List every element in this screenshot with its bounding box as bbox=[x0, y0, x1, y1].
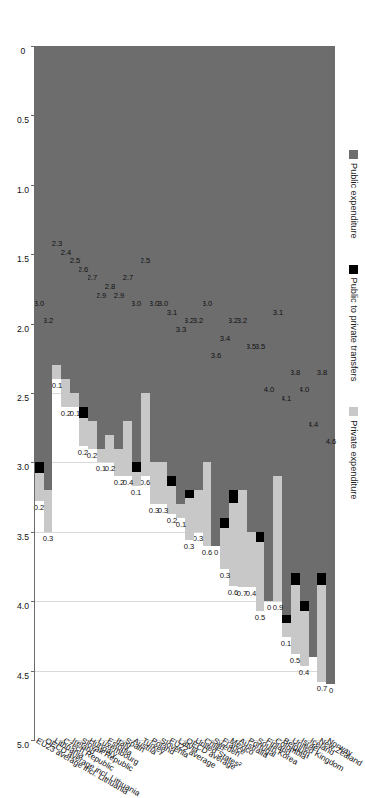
bar-value-private: 0.6 bbox=[140, 479, 151, 487]
bar-segment-public bbox=[317, 46, 326, 573]
axis-tick bbox=[31, 254, 35, 255]
bar-row: 3.00.3 bbox=[150, 46, 159, 740]
bar-value-private: 0.6 bbox=[228, 589, 239, 597]
bar-row: 3.00.3 bbox=[158, 46, 167, 740]
bar-segment-transfers bbox=[282, 615, 291, 623]
bar-row: 3.80.5 bbox=[291, 46, 300, 740]
bar-row: 2.70.4 bbox=[123, 46, 132, 740]
bar-value-private: 0.6 bbox=[202, 549, 213, 557]
bar-segment-public bbox=[194, 46, 203, 490]
bar-row: 2.60.2 bbox=[79, 46, 88, 740]
bar-value-public: 2.9 bbox=[113, 292, 124, 300]
bar-value-private: 0.1 bbox=[52, 382, 63, 390]
axis-tick-label: 3.5 bbox=[17, 532, 29, 542]
bar-value-private: 0.2 bbox=[113, 479, 124, 487]
axis-tick bbox=[31, 324, 35, 325]
bar-segment-private bbox=[238, 490, 247, 587]
bar-segment-private bbox=[105, 435, 114, 463]
bar-value-public: 2.7 bbox=[122, 275, 133, 283]
bar-value-public: 2.4 bbox=[60, 249, 71, 257]
axis-tick bbox=[31, 462, 35, 463]
bar-value-private: 0.7 bbox=[316, 685, 327, 693]
bar-value-public: 2.5 bbox=[140, 257, 151, 265]
bar-row: 3.00.2 bbox=[35, 46, 44, 740]
axis-tick bbox=[31, 46, 35, 47]
bar-segment-public bbox=[44, 46, 53, 490]
bar-row: 2.70.2 bbox=[88, 46, 97, 740]
bar-row: 2.40.2 bbox=[61, 46, 70, 740]
bar-value-private: 0.2 bbox=[166, 517, 177, 525]
bar-row: 3.60 bbox=[211, 46, 220, 740]
bar-value-private: 0.1 bbox=[96, 466, 107, 474]
bar-value-public: 3.1 bbox=[166, 309, 177, 317]
legend-label: Public to private transfers bbox=[349, 278, 359, 382]
bar-value-private: 0.2 bbox=[78, 449, 89, 457]
bar-value-public: 4.6 bbox=[325, 438, 336, 446]
bar-value-public: 2.8 bbox=[105, 283, 116, 291]
bar-value-private: 0.4 bbox=[246, 591, 257, 599]
bar-segment-public bbox=[291, 46, 300, 573]
bar-segment-private bbox=[317, 585, 326, 682]
bar-value-public: 3.0 bbox=[202, 300, 213, 308]
bar-segment-public bbox=[238, 46, 247, 490]
bar-row: 2.90.1 bbox=[97, 46, 106, 740]
bar-segment-private bbox=[203, 462, 212, 545]
bar-segment-public bbox=[264, 46, 273, 601]
bar-segment-private bbox=[176, 504, 185, 518]
legend-label: Private expenditure bbox=[349, 420, 359, 499]
bar-segment-private bbox=[291, 585, 300, 654]
bar-segment-transfers bbox=[167, 476, 176, 486]
bar-value-private: 0.5 bbox=[255, 614, 266, 622]
bar-segment-transfers bbox=[256, 532, 265, 542]
plot-area: 4.603.80.74.44.00.43.80.54.10.13.10.94.0… bbox=[35, 46, 335, 740]
bar-row: 2.50.6 bbox=[141, 46, 150, 740]
bar-segment-private bbox=[70, 393, 79, 407]
bar-value-public: 4.0 bbox=[299, 386, 310, 394]
bar-row: 4.60 bbox=[326, 46, 335, 740]
axis-tick-label: 4.0 bbox=[17, 601, 29, 611]
bar-segment-transfers bbox=[229, 490, 238, 502]
bar-value-private: 0.3 bbox=[184, 543, 195, 551]
bar-row: 3.50.5 bbox=[256, 46, 265, 740]
axis-tick bbox=[31, 393, 35, 394]
axis-tick bbox=[31, 740, 35, 741]
bar-value-public: 3.1 bbox=[272, 309, 283, 317]
axis-tick-label: 1.5 bbox=[17, 254, 29, 264]
bar-rows: 4.603.80.74.44.00.43.80.54.10.13.10.94.0… bbox=[35, 46, 335, 740]
bar-segment-public bbox=[326, 46, 335, 684]
bar-segment-public bbox=[79, 46, 88, 407]
axis-tick-label: 1.0 bbox=[17, 185, 29, 195]
bar-value-private: 0.3 bbox=[193, 535, 204, 543]
bar-segment-public bbox=[176, 46, 185, 504]
bar-segment-private bbox=[282, 623, 291, 637]
bar-value-private: 0.2 bbox=[60, 410, 71, 418]
bar-value-private: 0.5 bbox=[290, 657, 301, 665]
bar-value-public: 3.8 bbox=[316, 369, 327, 377]
bar-segment-private bbox=[194, 490, 203, 532]
bar-row: 3.20.3 bbox=[185, 46, 194, 740]
bar-segment-private bbox=[273, 476, 282, 601]
bar-segment-public bbox=[158, 46, 167, 462]
bar-segment-private bbox=[114, 449, 123, 477]
axis-tick-label: 2.0 bbox=[17, 324, 29, 334]
bar-row: 3.30.1 bbox=[176, 46, 185, 740]
bar-value-public: 3.5 bbox=[246, 343, 257, 351]
bar-value-private: 0.4 bbox=[299, 670, 310, 678]
bar-row: 3.50.4 bbox=[247, 46, 256, 740]
bar-value-private: 0.3 bbox=[43, 535, 54, 543]
bar-row: 3.00.6 bbox=[203, 46, 212, 740]
bar-segment-private bbox=[256, 542, 265, 611]
bar-segment-transfers bbox=[300, 601, 309, 611]
bar-row: 3.10.2 bbox=[167, 46, 176, 740]
bar-segment-transfers bbox=[185, 490, 194, 498]
bar-value-public: 2.6 bbox=[78, 266, 89, 274]
bar-segment-public bbox=[97, 46, 106, 449]
bar-segment-public bbox=[203, 46, 212, 462]
bar-segment-public bbox=[309, 46, 318, 657]
legend-item-transfers: Public to private transfers bbox=[349, 265, 359, 382]
axis-tick-label: 0 bbox=[21, 46, 26, 56]
bar-segment-private bbox=[61, 379, 70, 407]
axis-tick bbox=[31, 185, 35, 186]
bar-segment-private bbox=[300, 611, 309, 667]
bar-value-private: 0.7 bbox=[237, 591, 248, 599]
